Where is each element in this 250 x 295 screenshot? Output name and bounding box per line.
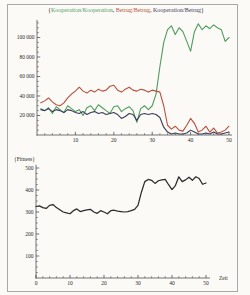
x-tick-label: 20 <box>111 137 117 143</box>
x-tick-label: 0 <box>35 280 38 286</box>
x-tick-label: 50 <box>203 280 209 286</box>
series-line-kooperation-kooperation <box>41 24 229 122</box>
x-tick-label: 50 <box>226 137 232 143</box>
bottom-chart-svg: 01020304050100200300400500Zeit{Fitness} <box>0 150 250 295</box>
x-tick-label: 30 <box>149 137 155 143</box>
axis-minor-ticks <box>36 174 199 279</box>
top-chart-svg: 102030405020 00040 00060 00080 000100 00… <box>0 16 244 150</box>
x-tick-label: 20 <box>101 280 107 286</box>
legend-label-kooperation-kooperation: Kooperation/Kooperation <box>51 7 113 13</box>
y-tick-label: 400 <box>25 187 34 193</box>
legend-label-betrug-betrug: Betrug/Betrug <box>116 7 150 13</box>
legend-label-kooperation-betrug: Kooperation/Betrug <box>153 7 201 13</box>
y-tick-label: 500 <box>25 165 34 171</box>
x-tick-label: 40 <box>188 137 194 143</box>
y-tick-label: 20 000 <box>19 112 34 118</box>
title-close-brace: } <box>201 7 204 13</box>
series-line-fitness <box>36 177 206 214</box>
x-tick-label: 10 <box>67 280 73 286</box>
axis-major-ticks <box>37 38 229 136</box>
y-tick-label: 100 000 <box>17 34 35 40</box>
y-tick-label: 40 000 <box>19 93 34 99</box>
x-tick-label: 40 <box>169 280 175 286</box>
x-tick-label: 30 <box>135 280 141 286</box>
y-axis-label: {Fitness} <box>14 156 35 163</box>
y-tick-label: 100 <box>25 253 34 259</box>
axis-minor-ticks <box>37 23 221 135</box>
axis-tick-labels: 01020304050100200300400500 <box>25 165 209 286</box>
y-tick-label: 80 000 <box>19 54 34 60</box>
series-line-betrug-betrug <box>41 85 229 133</box>
y-tick-label: 300 <box>25 209 34 215</box>
y-tick-label: 200 <box>25 231 34 237</box>
x-tick-label: 10 <box>73 137 79 143</box>
top-chart-title: {Kooperation/Kooperation, Betrug/Betrug,… <box>14 6 238 15</box>
axis-tick-labels: 102030405020 00040 00060 00080 000100 00… <box>17 34 232 143</box>
scanned-book-page: {Kooperation/Kooperation, Betrug/Betrug,… <box>0 0 250 295</box>
y-tick-label: 60 000 <box>19 73 34 79</box>
axis-major-ticks <box>36 168 206 278</box>
x-axis-label: Zeit <box>219 275 228 281</box>
